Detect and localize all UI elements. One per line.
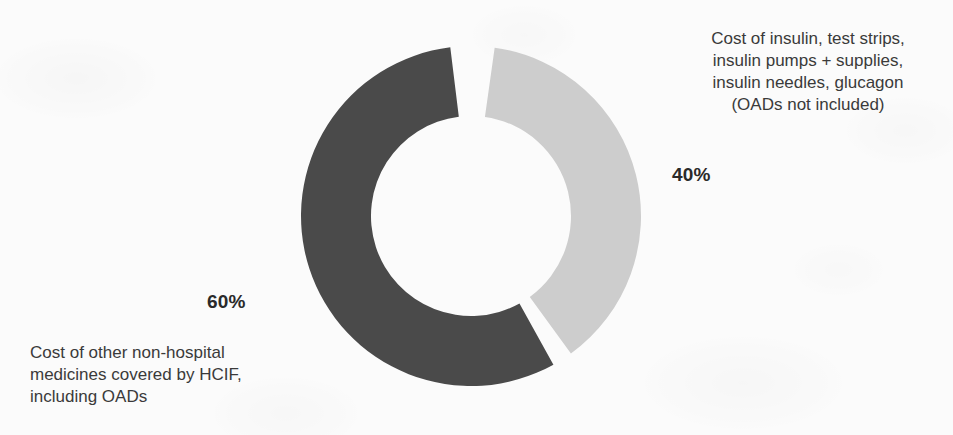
donut-slices: [301, 47, 641, 386]
donut-slice-insulin[interactable]: [485, 48, 641, 354]
slice-value-other-medicines: 60%: [207, 290, 246, 315]
slice-label-insulin: Cost of insulin, test strips, insulin pu…: [672, 28, 944, 116]
slice-label-other-medicines: Cost of other non-hospital medicines cov…: [30, 342, 320, 408]
slice-value-insulin: 40%: [672, 163, 711, 188]
donut-chart-figure: Cost of insulin, test strips, insulin pu…: [0, 0, 953, 435]
